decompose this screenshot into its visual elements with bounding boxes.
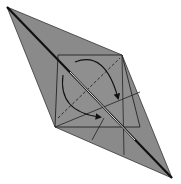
origami-diagram (0, 0, 181, 184)
origami-diagram-canvas (0, 0, 181, 184)
